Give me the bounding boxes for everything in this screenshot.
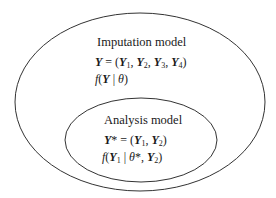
analysis-model-variables: Y* = (Y1, Y2) (104, 134, 167, 150)
analysis-model-density: f(Y1 | θ*, Y2) (102, 151, 162, 167)
imputation-model-variables: Y = (Y1, Y2, Y3, Y4) (95, 56, 186, 72)
diagram-canvas (0, 0, 276, 198)
analysis-model-title: Analysis model (104, 114, 182, 127)
imputation-model-density: f(Y | θ) (95, 73, 128, 86)
imputation-model-title: Imputation model (97, 36, 186, 49)
